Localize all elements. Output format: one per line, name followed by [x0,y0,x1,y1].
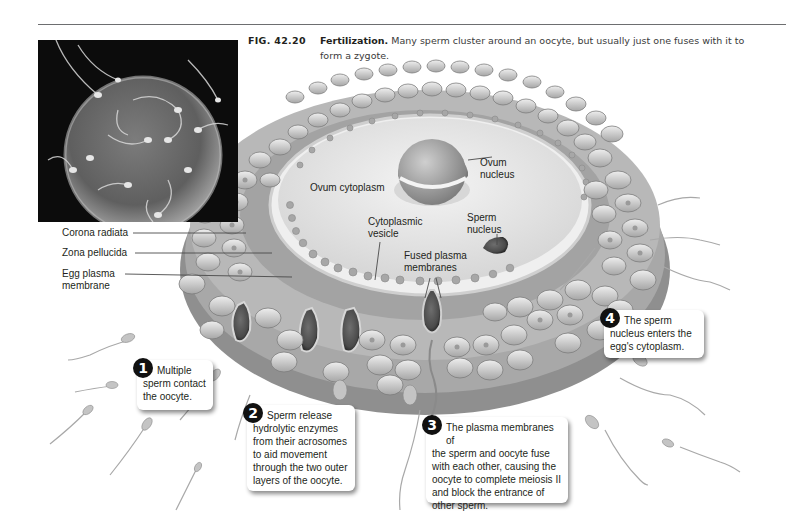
label-corona-radiata: Corona radiata [62,227,128,239]
step-2-line: through the two outer [253,461,349,474]
step-4-badge: 4 [600,308,620,328]
label-fused-line1: Fused plasma [404,250,467,262]
step-3-callout: The plasma membranes of the sperm and oo… [426,417,568,503]
step-3-line: the sperm and oocyte fuse [432,447,562,460]
label-sperm-nucleus-line1: Sperm [467,212,501,224]
step-3-line: and block the entrance of [432,486,562,499]
label-egg-plasma-membrane: Egg plasma membrane [62,268,115,292]
step-2-line: hydrolytic enzymes [253,422,349,435]
label-vesicle-line2: vesicle [368,228,422,240]
step-2-line: layers of the oocyte. [253,474,349,487]
label-ovum-nucleus-line1: Ovum [480,157,514,169]
step-3-line: The plasma membranes of [432,421,562,447]
step-2-line: to aid movement [253,448,349,461]
label-ovum-nucleus: Ovum nucleus [480,157,514,181]
step-3-line: with each other, causing the [432,460,562,473]
step-4-line: The sperm [610,314,698,327]
step-4-line: egg's cytoplasm. [610,340,698,353]
label-fused-plasma-membranes: Fused plasma membranes [404,250,467,274]
step-1-line: sperm contact [143,377,207,390]
label-sperm-nucleus: Sperm nucleus [467,212,501,236]
step-4-line: nucleus enters the [610,327,698,340]
step-2-badge: 2 [243,403,263,423]
step-2-line: Sperm release [253,409,349,422]
label-fused-line2: membranes [404,262,467,274]
step-3-line: other sperm. [432,499,562,512]
step-3-badge: 3 [422,415,442,435]
label-vesicle-line1: Cytoplasmic [368,216,422,228]
step-3-line: oocyte to complete meiosis II [432,473,562,486]
label-ovum-cytoplasm: Ovum cytoplasm [310,182,384,194]
step-2-callout: Sperm release hydrolytic enzymes from th… [247,405,355,491]
label-sperm-nucleus-line2: nucleus [467,224,501,236]
sem-oocyte-image [38,40,238,222]
step-1-badge: 1 [133,358,153,378]
label-cytoplasmic-vesicle: Cytoplasmic vesicle [368,216,422,240]
step-1-line: the oocyte. [143,390,207,403]
label-egg-plasma-line1: Egg plasma [62,268,115,280]
label-egg-plasma-line2: membrane [62,280,115,292]
sem-micrograph [38,40,238,222]
label-zona-pellucida: Zona pellucida [62,247,127,259]
label-ovum-nucleus-line2: nucleus [480,169,514,181]
step-2-line: from their acrosomes [253,435,349,448]
